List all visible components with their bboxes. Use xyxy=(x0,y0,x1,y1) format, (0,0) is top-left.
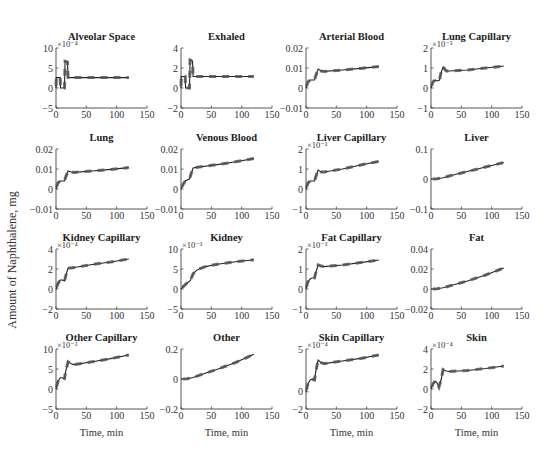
simulation-line xyxy=(56,355,129,389)
x-tick-label: 50 xyxy=(331,310,341,321)
y-tick-label: −5 xyxy=(167,304,178,315)
x-tick-label: 50 xyxy=(331,109,341,120)
x-tick-label: 0 xyxy=(304,109,309,120)
y-tick-label: 4 xyxy=(48,244,53,255)
x-tick-label: 100 xyxy=(109,109,124,120)
x-tick-label: 100 xyxy=(109,310,124,321)
y-tick-label: 1 xyxy=(423,63,428,74)
y-tick-label: 0 xyxy=(298,184,303,195)
x-tick-label: 150 xyxy=(515,109,530,120)
subplot-skin-capillary: Skin Capillary050100150−205×10⁻⁴Time, mi… xyxy=(292,332,404,438)
x-tick-label: 50 xyxy=(206,210,216,221)
x-tick-label: 100 xyxy=(109,210,124,221)
x-tick-label: 50 xyxy=(456,109,466,120)
x-tick-label: 50 xyxy=(206,310,216,321)
x-tick-label: 50 xyxy=(331,210,341,221)
simulation-line xyxy=(56,168,129,189)
subplot-title: Kidney xyxy=(210,232,243,243)
x-tick-label: 50 xyxy=(206,109,216,120)
axes xyxy=(306,249,397,309)
x-tick-label: 50 xyxy=(206,410,216,421)
y-tick-label: −5 xyxy=(42,103,53,114)
y-tick-label: 2 xyxy=(173,63,178,74)
y-tick-label: 0.2 xyxy=(166,344,179,355)
x-tick-label: 150 xyxy=(515,210,530,221)
subplot-other: Other050100150−0.200.2Time, min xyxy=(160,332,280,438)
y-tick-label: 0 xyxy=(173,284,178,295)
y-tick-label: −0.01 xyxy=(30,204,53,215)
x-axis-label: Time, min xyxy=(330,427,374,438)
subplot-kidney-capillary: Kidney Capillary050100150−2024×10⁻⁴ xyxy=(42,232,154,321)
x-tick-label: 100 xyxy=(234,410,249,421)
measured-band xyxy=(306,161,379,189)
subplot-title: Liver xyxy=(464,132,489,143)
x-tick-label: 50 xyxy=(331,410,341,421)
subplot-title: Lung xyxy=(90,132,115,143)
y-tick-label: 5 xyxy=(298,344,303,355)
x-tick-label: 150 xyxy=(265,410,280,421)
x-tick-label: 50 xyxy=(81,310,91,321)
x-tick-label: 150 xyxy=(390,410,405,421)
x-axis-label: Time, min xyxy=(205,427,249,438)
y-tick-label: 0 xyxy=(298,386,303,397)
y-tick-label: 0 xyxy=(173,374,178,385)
y-tick-label: 10 xyxy=(168,244,178,255)
x-tick-label: 150 xyxy=(265,310,280,321)
y-tick-label: −0.1 xyxy=(410,204,428,215)
measured-band xyxy=(181,260,254,289)
x-tick-label: 100 xyxy=(234,310,249,321)
y-tick-label: 0.02 xyxy=(411,264,429,275)
x-tick-label: 150 xyxy=(390,310,405,321)
y-tick-label: 0 xyxy=(48,184,53,195)
y-tick-label: −1 xyxy=(417,103,428,114)
x-tick-label: 0 xyxy=(179,310,184,321)
axes xyxy=(56,249,147,309)
subplot-other-capillary: Other Capillary050100150−50510×10⁻³Time,… xyxy=(42,332,154,438)
y-tick-label: 0.04 xyxy=(411,244,429,255)
simulation-line xyxy=(306,355,379,392)
x-tick-label: 100 xyxy=(109,410,124,421)
y-tick-label: 0 xyxy=(423,174,428,185)
y-scale-factor: ×10⁻³ xyxy=(307,240,328,250)
x-tick-label: 50 xyxy=(81,109,91,120)
y-tick-label: 0 xyxy=(423,83,428,94)
y-tick-label: −2 xyxy=(42,304,53,315)
y-tick-label: 5 xyxy=(173,264,178,275)
subplot-title: Fat Capillary xyxy=(321,232,382,243)
y-tick-label: 1 xyxy=(298,164,303,175)
x-tick-label: 0 xyxy=(179,410,184,421)
x-tick-label: 150 xyxy=(390,109,405,120)
x-tick-label: 0 xyxy=(54,210,59,221)
y-scale-factor: ×10⁻⁴ xyxy=(57,39,78,49)
subplot-lung: Lung050100150−0.0100.010.02 xyxy=(30,132,155,221)
y-tick-label: −0.2 xyxy=(160,404,178,415)
subplot-venous-blood: Venous Blood050100150−0.0100.010.02 xyxy=(155,132,280,221)
y-tick-label: −1 xyxy=(292,204,303,215)
y-tick-label: −1 xyxy=(292,304,303,315)
simulation-line xyxy=(431,163,504,180)
subplot-title: Skin xyxy=(466,332,487,343)
x-tick-label: 0 xyxy=(429,310,434,321)
x-tick-label: 150 xyxy=(140,109,155,120)
x-tick-label: 150 xyxy=(265,109,280,120)
simulation-line xyxy=(181,354,254,379)
measured-band xyxy=(181,60,254,88)
measured-band xyxy=(181,354,254,379)
y-tick-label: 0 xyxy=(173,184,178,195)
axes xyxy=(181,349,272,409)
axes xyxy=(56,349,147,409)
x-tick-label: 100 xyxy=(234,109,249,120)
x-tick-label: 150 xyxy=(390,210,405,221)
x-tick-label: 150 xyxy=(515,410,530,421)
measured-band xyxy=(181,159,254,189)
x-tick-label: 150 xyxy=(265,210,280,221)
y-tick-label: −2 xyxy=(417,404,428,415)
y-tick-label: 0 xyxy=(48,384,53,395)
axes xyxy=(431,149,522,209)
x-tick-label: 100 xyxy=(359,109,374,120)
figure-canvas: Alveolar Space050100150−50510×10⁻⁴Exhale… xyxy=(0,0,551,459)
simulation-line xyxy=(431,268,504,289)
y-scale-factor: ×10⁻³ xyxy=(432,39,453,49)
simulation-line xyxy=(181,60,254,88)
x-tick-label: 100 xyxy=(484,109,499,120)
